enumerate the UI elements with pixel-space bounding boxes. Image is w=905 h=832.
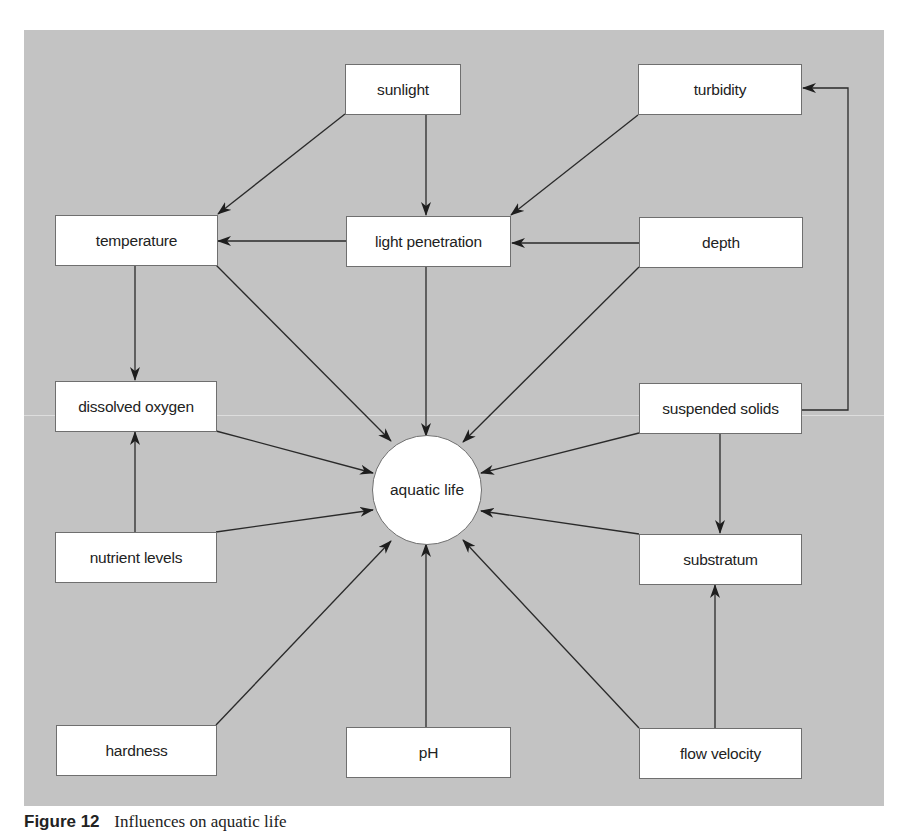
node-sunlight: sunlight	[345, 64, 461, 115]
hub-label: aquatic life	[390, 481, 464, 499]
node-depth: depth	[639, 217, 803, 268]
figure-caption: Figure 12 Influences on aquatic life	[24, 812, 287, 832]
edge-turbidity-light-penetration	[511, 115, 638, 215]
hub-aquatic-life: aquatic life	[372, 435, 482, 545]
node-label: substratum	[683, 551, 758, 569]
edge-dissolved-oxygen-aquatic-life	[216, 431, 373, 473]
figure-label: Figure 12	[24, 812, 100, 831]
edge-suspended-solids-turbidity	[801, 88, 848, 410]
node-label: flow velocity	[680, 745, 761, 763]
node-label: light penetration	[375, 233, 482, 251]
node-nutrient-levels: nutrient levels	[55, 532, 217, 583]
edge-nutrient-levels-aquatic-life	[216, 510, 373, 532]
node-label: pH	[419, 744, 438, 762]
node-ph: pH	[346, 727, 511, 778]
node-label: hardness	[105, 742, 167, 760]
node-label: nutrient levels	[90, 549, 183, 567]
node-label: sunlight	[377, 81, 429, 99]
node-label: temperature	[96, 232, 177, 250]
node-label: turbidity	[694, 81, 746, 99]
node-temperature: temperature	[55, 215, 218, 266]
node-dissolved-oxygen: dissolved oxygen	[55, 381, 217, 432]
node-label: depth	[702, 234, 740, 252]
edge-hardness-aquatic-life	[216, 541, 391, 725]
node-hardness: hardness	[56, 725, 217, 776]
node-flow-velocity: flow velocity	[639, 728, 802, 779]
node-turbidity: turbidity	[638, 64, 802, 115]
edge-depth-aquatic-life	[463, 267, 639, 442]
edge-sunlight-temperature	[218, 114, 345, 214]
edge-temperature-aquatic-life	[216, 265, 391, 441]
node-light-penetration: light penetration	[346, 216, 511, 267]
node-label: suspended solids	[662, 400, 779, 418]
node-substratum: substratum	[639, 534, 802, 585]
edge-suspended-solids-aquatic-life	[481, 433, 639, 473]
figure-title: Influences on aquatic life	[114, 812, 286, 831]
node-suspended-solids: suspended solids	[639, 383, 802, 434]
node-label: dissolved oxygen	[78, 398, 194, 416]
edge-flow-velocity-aquatic-life	[463, 540, 639, 728]
edge-substratum-aquatic-life	[481, 511, 639, 534]
